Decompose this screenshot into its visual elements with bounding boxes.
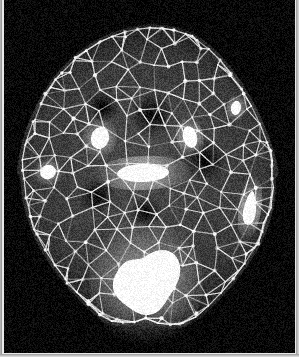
left-margin-edge	[0, 0, 2, 357]
scan-canvas	[4, 0, 295, 353]
scan-image-frame	[4, 0, 295, 353]
scan-viewport: grayscale-medical-scan	[0, 0, 299, 357]
right-margin-edge	[296, 0, 299, 357]
